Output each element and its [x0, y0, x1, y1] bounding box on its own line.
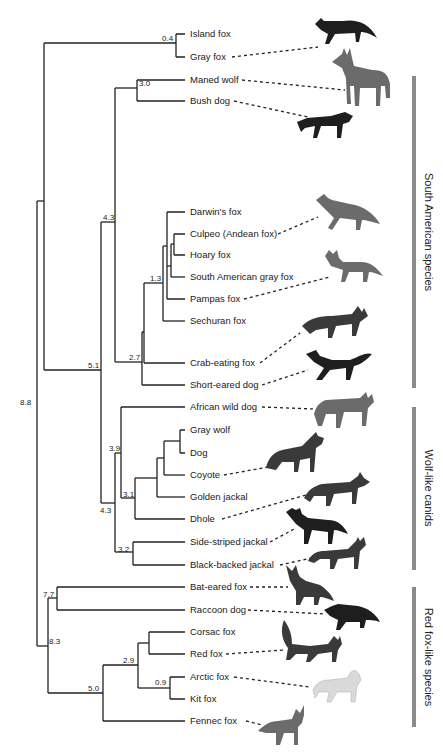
leaf-label-bush-dog: Bush dog — [190, 95, 230, 106]
connector-arctic-fox — [234, 677, 310, 687]
branch — [133, 542, 185, 565]
group-label-wolf-like: Wolf-like canids — [423, 450, 435, 527]
node-label: 5.0 — [88, 684, 100, 693]
leaf-label-culpeo: Culpeo (Andean fox) — [190, 228, 277, 239]
leaf-label-black-backed-jackal: Black-backed jackal — [190, 559, 274, 570]
leaf-label-short-eared-dog: Short-eared dog — [190, 379, 259, 390]
leaf-label-golden-jackal: Golden jackal — [190, 491, 248, 502]
node-label: 3.2 — [118, 545, 130, 554]
black-backed-jackal-illustration — [308, 537, 366, 569]
short-eared-dog-illustration — [306, 350, 372, 380]
connector-short-eared-dog — [262, 370, 308, 385]
connector-coyote — [224, 467, 268, 475]
group-bar-red-fox-like — [412, 587, 416, 727]
leaf-label-coyote: Coyote — [190, 469, 220, 480]
connector-maned-wolf — [242, 80, 345, 90]
arctic-fox-illustration — [313, 670, 361, 702]
group-bar-wolf-like — [412, 407, 416, 570]
culpeo-illustration — [316, 194, 380, 230]
node-label: 7.7 — [43, 590, 55, 599]
branch — [170, 677, 185, 699]
node-label: 3.0 — [139, 79, 151, 88]
leaf-label-side-striped-jackal: Side-striped jackal — [190, 536, 268, 547]
african-wild-dog-illustration — [314, 392, 374, 428]
leaf-label-crab-eating-fox: Crab-eating fox — [190, 357, 255, 368]
leaf-label-african-wild-dog: African wild dog — [190, 401, 257, 412]
leaf-label-corsac-fox: Corsac fox — [190, 626, 236, 637]
bat-eared-fox-illustration — [286, 565, 334, 605]
node-label: 3.1 — [123, 490, 135, 499]
dhole-illustration — [286, 508, 348, 544]
branch — [180, 430, 185, 453]
group-brackets: South American species Wolf-like canids … — [412, 76, 435, 727]
golden-jackal-illustration — [304, 472, 370, 506]
leaf-label-darwins-fox: Darwin's fox — [190, 206, 242, 217]
leaf-label-dog: Dog — [190, 447, 207, 458]
branch — [57, 587, 185, 610]
leaf-label-south-american-gray-fox: South American gray fox — [190, 271, 294, 282]
node-label: 1.3 — [150, 274, 162, 283]
raccoon-dog-illustration — [324, 604, 380, 630]
leaf-label-raccoon-dog: Raccoon dog — [190, 604, 246, 615]
fennec-fox-illustration — [258, 705, 304, 745]
branch — [176, 34, 185, 57]
connector-bush-dog — [234, 101, 308, 117]
coyote-illustration — [266, 432, 324, 472]
node-label: 8.3 — [49, 637, 61, 646]
connector-crab-eating-fox — [260, 333, 300, 363]
leaf-label-fennec-fox: Fennec fox — [190, 715, 237, 726]
crab-eating-fox-illustration — [302, 306, 368, 338]
leaf-label-hoary-fox: Hoary fox — [190, 249, 231, 260]
maned-wolf-illustration — [332, 48, 390, 106]
leaf-label-pampas-fox: Pampas fox — [190, 293, 240, 304]
node-label: 3.9 — [109, 444, 121, 453]
phylogenetic-tree: 0.4 3.0 4.3 1.3 2.7 5.1 8.8 3.9 3.1 4.3 … — [0, 0, 443, 753]
branch — [174, 234, 185, 255]
leaf-label-maned-wolf: Maned wolf — [190, 74, 239, 85]
group-label-red-fox-like: Red fox-like species — [423, 608, 435, 707]
leaf-label-island-fox: Island fox — [190, 28, 231, 39]
leaf-label-kit-fox: Kit fox — [190, 693, 217, 704]
node-label: 0.9 — [155, 678, 167, 687]
connector-side-striped-jackal — [270, 528, 296, 542]
leaf-label-gray-fox: Gray fox — [190, 51, 226, 62]
leaf-label-gray-wolf: Gray wolf — [190, 424, 230, 435]
animal-illustrations — [258, 18, 390, 745]
red-fox-illustration — [282, 620, 342, 662]
branch — [149, 632, 185, 654]
group-bar-south-american — [412, 76, 416, 388]
leaf-label-arctic-fox: Arctic fox — [190, 671, 229, 682]
connector-red-fox — [226, 650, 284, 654]
connector-culpeo — [278, 217, 318, 234]
leaf-label-bat-eared-fox: Bat-eared fox — [190, 581, 247, 592]
gray-fox-illustration — [315, 18, 377, 44]
node-label: 5.1 — [88, 361, 100, 370]
node-label: 8.8 — [20, 398, 32, 407]
leaf-label-red-fox: Red fox — [190, 648, 223, 659]
pampas-fox-illustration — [325, 250, 383, 282]
leaf-label-sechuran-fox: Sechuran fox — [190, 315, 246, 326]
node-label: 4.3 — [100, 506, 112, 515]
leaf-labels: Island fox Gray fox Maned wolf Bush dog … — [190, 28, 294, 726]
node-label: 2.7 — [129, 353, 141, 362]
node-label: 2.9 — [123, 656, 135, 665]
group-label-south-american: South American species — [423, 173, 435, 292]
connector-gray-fox — [232, 47, 318, 57]
node-label: 0.4 — [162, 34, 174, 43]
tree-branches — [37, 34, 185, 721]
connector-raccoon-dog — [248, 610, 326, 614]
node-label: 4.3 — [103, 213, 115, 222]
connector-african-wild-dog — [262, 407, 314, 409]
leaf-label-dhole: Dhole — [190, 513, 215, 524]
connector-fennec-fox — [246, 721, 262, 725]
